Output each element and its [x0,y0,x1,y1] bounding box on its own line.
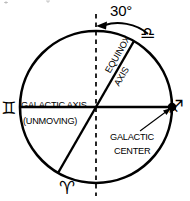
galactic-center-label-line2: CENTER [114,147,150,156]
gemini-icon: ♊ [1,100,16,117]
aries-icon: ♈ [59,179,75,197]
galactic-center-label-line1: GALACTIC [110,133,154,142]
angle-label: 30° [110,3,132,18]
galactic-axis-label: GALACTIC AXIS [21,101,87,110]
unmoving-label: (UNMOVING) [23,117,77,126]
libra-icon: ♎ [140,25,155,42]
sagittarius-icon: ♐ [168,98,184,116]
diagram-canvas: 30° GALACTIC AXIS (UNMOVING) EQUINOX AXI… [0,0,190,201]
galactic-center-leader [140,108,171,131]
crop-marks [4,1,50,4]
